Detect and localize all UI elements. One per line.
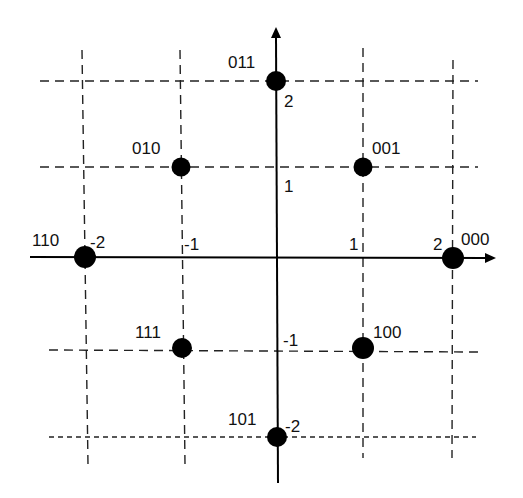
point-100 <box>352 337 374 359</box>
point-101 <box>267 427 287 447</box>
point-label-000: 000 <box>461 230 489 249</box>
point-011 <box>266 71 286 91</box>
point-label-110: 110 <box>32 231 59 250</box>
horizontal-grid-lines <box>40 81 478 437</box>
y-axis <box>276 36 278 483</box>
tick-label-y-neg2: -2 <box>285 417 300 436</box>
point-label-010: 010 <box>132 139 160 158</box>
point-110 <box>74 246 96 268</box>
tick-label-x-pos2: 2 <box>433 235 442 254</box>
point-label-001: 001 <box>372 139 400 158</box>
constellation-points <box>74 71 464 447</box>
point-label-011: 011 <box>228 53 255 72</box>
point-label-100: 100 <box>373 323 401 342</box>
x-axis <box>30 257 488 258</box>
tick-label-y-neg1: -1 <box>283 331 298 350</box>
tick-label-x-pos1: 1 <box>349 235 358 254</box>
grid-line-y-neg1 <box>49 350 478 352</box>
point-label-101: 101 <box>228 410 256 429</box>
constellation-diagram: -2 -1 1 2 2 1 -1 -2 000 001 011 010 110 … <box>0 0 523 498</box>
point-label-111: 111 <box>135 323 161 342</box>
point-010 <box>172 158 191 177</box>
point-000 <box>442 247 464 269</box>
x-axis-arrow-icon <box>485 253 496 263</box>
tick-label-x-neg1: -1 <box>184 235 199 254</box>
point-001 <box>354 158 373 177</box>
y-axis-arrow-icon <box>271 27 281 38</box>
axes <box>30 27 496 483</box>
tick-label-y-pos1: 1 <box>284 177 293 196</box>
point-111 <box>172 338 192 358</box>
tick-label-y-pos2: 2 <box>284 92 293 111</box>
